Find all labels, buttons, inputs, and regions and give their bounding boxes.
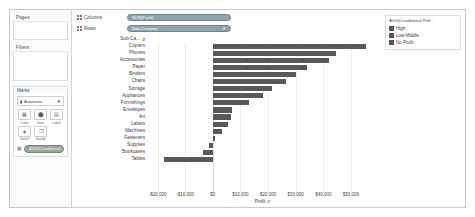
- sort-icon[interactable]: ⇵: [267, 199, 270, 204]
- row-header-cell[interactable]: Machines: [76, 128, 148, 135]
- row-header-cell[interactable]: Furnishings: [76, 99, 148, 106]
- bar-copiers[interactable]: [213, 44, 367, 49]
- size-icon: ⬤: [34, 109, 47, 120]
- columns-shelf[interactable]: Columns SUM(Profit): [77, 13, 378, 22]
- marks-card-title: Marks: [14, 87, 67, 94]
- pages-shelf[interactable]: Pages: [13, 14, 68, 40]
- marks-size-label: Size: [33, 121, 48, 125]
- bar-binders[interactable]: [213, 72, 296, 77]
- marks-label-button[interactable]: ▤ Label: [49, 109, 64, 125]
- bar-phones[interactable]: [213, 51, 336, 56]
- marks-color-encoding: ▦ AGG(Conditional...: [17, 145, 64, 153]
- grip-icon: [77, 15, 82, 20]
- x-axis-title-group[interactable]: Profit ⇵: [255, 199, 271, 204]
- legend-swatch-icon: [389, 40, 394, 45]
- x-axis-title: Profit: [255, 199, 266, 204]
- sort-icon[interactable]: ⇵: [142, 38, 145, 42]
- rows-shelf[interactable]: Rows Sub-Category ▼: [77, 24, 378, 33]
- bar-tables[interactable]: [164, 157, 213, 162]
- color-swatch-icon: ▦: [17, 146, 22, 151]
- columns-pill-sum-profit[interactable]: SUM(Profit): [127, 14, 231, 22]
- x-axis-tick-label: $30,000: [288, 192, 304, 197]
- row-header-cell[interactable]: Accessories: [76, 57, 148, 64]
- bar-machines[interactable]: [213, 129, 222, 134]
- bar-storage[interactable]: [213, 86, 272, 91]
- bar-envelopes[interactable]: [213, 107, 232, 112]
- row-header-column: Sub-Ca... ⇵ CopiersPhonesAccessoriesPape…: [76, 36, 148, 163]
- x-axis-tick-label: -$10,000: [176, 192, 194, 197]
- marks-buttons: ▦ Color ⬤ Size ▤ Label ▲ Detail: [17, 109, 64, 141]
- rows-pill-slot[interactable]: Sub-Category ▼: [127, 25, 378, 33]
- row-header-cell[interactable]: Labels: [76, 121, 148, 128]
- legend-panel: AGG(Conditional Prof... HighLow-MiddleNo…: [383, 10, 465, 207]
- color-legend: AGG(Conditional Prof... HighLow-MiddleNo…: [385, 15, 461, 50]
- row-header-cell[interactable]: Appliances: [76, 92, 148, 99]
- marks-color-button[interactable]: ▦ Color: [17, 109, 32, 125]
- legend-item-label: High: [396, 26, 405, 31]
- bar-paper[interactable]: [213, 65, 307, 70]
- row-header-cell[interactable]: Art: [76, 114, 148, 121]
- legend-item[interactable]: Low-Middle: [389, 32, 457, 39]
- bar-bookcases[interactable]: [203, 150, 213, 155]
- marks-detail-label: Detail: [17, 137, 32, 141]
- row-header-cell[interactable]: Supplies: [76, 142, 148, 149]
- marks-detail-button[interactable]: ▲ Detail: [17, 126, 32, 142]
- color-legend-title: AGG(Conditional Prof...: [389, 18, 457, 23]
- bar-art[interactable]: [213, 114, 231, 119]
- legend-item[interactable]: No Profit: [389, 39, 457, 46]
- legend-item-label: No Profit: [396, 40, 414, 45]
- row-header-cell[interactable]: Bookcases: [76, 149, 148, 156]
- bar-chairs[interactable]: [213, 79, 286, 84]
- bar-labels[interactable]: [213, 122, 228, 127]
- marks-size-button[interactable]: ⬤ Size: [33, 109, 48, 125]
- bar-supplies[interactable]: [209, 143, 212, 148]
- mark-type-select[interactable]: ▮ Automatic ▼: [17, 96, 64, 106]
- marks-tooltip-button[interactable]: ❐ Tooltip: [33, 126, 48, 142]
- row-header-cell[interactable]: Copiers: [76, 43, 148, 50]
- row-header-cell[interactable]: Tables: [76, 156, 148, 163]
- label-icon: ▤: [50, 109, 63, 120]
- bar-furnishings[interactable]: [213, 100, 249, 105]
- columns-shelf-label: Columns: [84, 15, 102, 20]
- filters-shelf[interactable]: Filters: [13, 44, 68, 81]
- bar-appliances[interactable]: [213, 93, 263, 98]
- gridline: [158, 43, 159, 192]
- row-header-cell[interactable]: Phones: [76, 50, 148, 57]
- chevron-down-icon: ▼: [57, 99, 61, 104]
- grip-icon: [77, 26, 82, 31]
- gridline: [185, 43, 186, 192]
- rows-pill-label: Sub-Category: [132, 26, 157, 31]
- pages-shelf-dropzone[interactable]: [13, 21, 68, 40]
- marks-card: Marks ▮ Automatic ▼ ▦ Color ⬤ Size: [13, 86, 68, 157]
- row-header-cell[interactable]: Paper: [76, 64, 148, 71]
- filters-shelf-dropzone[interactable]: [13, 51, 68, 81]
- chart-canvas: Sub-Ca... ⇵ CopiersPhonesAccessoriesPape…: [76, 36, 379, 207]
- columns-pill-label: SUM(Profit): [132, 15, 153, 20]
- rows-pill-sub-category[interactable]: Sub-Category ▼: [127, 25, 231, 33]
- filters-shelf-label: Filters: [13, 44, 68, 51]
- rows-shelf-label-group: Rows: [77, 26, 127, 31]
- bar-mark-icon: ▮: [20, 99, 22, 104]
- legend-item[interactable]: High: [389, 25, 457, 32]
- x-axis-tick-label: $50,000: [343, 192, 359, 197]
- row-header-cell[interactable]: Binders: [76, 71, 148, 78]
- legend-item-label: Low-Middle: [396, 33, 419, 38]
- columns-pill-slot[interactable]: SUM(Profit): [127, 14, 378, 22]
- marks-pill-conditional-profit[interactable]: AGG(Conditional...: [24, 145, 64, 153]
- x-axis: Profit ⇵ -$20,000-$10,000$0$10,000$20,00…: [152, 192, 373, 207]
- row-header-cell[interactable]: Envelopes: [76, 106, 148, 113]
- x-axis-tick-label: $40,000: [315, 192, 331, 197]
- row-header-title-cell[interactable]: Sub-Ca... ⇵: [76, 36, 148, 43]
- row-header-cell[interactable]: Chairs: [76, 78, 148, 85]
- columns-shelf-label-group: Columns: [77, 15, 127, 20]
- detail-icon: ▲: [18, 126, 31, 137]
- x-axis-tick-label: -$20,000: [149, 192, 167, 197]
- row-header-cell[interactable]: Storage: [76, 85, 148, 92]
- bar-accessories[interactable]: [213, 58, 329, 63]
- bar-fasteners[interactable]: [213, 136, 216, 141]
- marks-label-label: Label: [49, 121, 64, 125]
- plot-region: [152, 43, 373, 192]
- chevron-down-icon: ▼: [222, 26, 226, 31]
- row-header-cell[interactable]: Fasteners: [76, 135, 148, 142]
- x-axis-tick-label: $20,000: [260, 192, 276, 197]
